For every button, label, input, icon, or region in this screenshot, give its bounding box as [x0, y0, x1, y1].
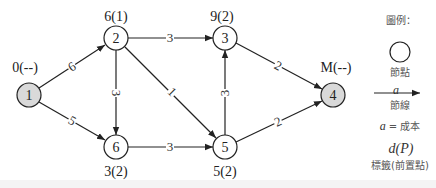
node-5-label: 5(2) — [213, 164, 237, 180]
legend-cost: a = 成本 — [380, 119, 421, 133]
node-4-label: M(--) — [320, 60, 351, 76]
legend: 圖例： 節點 a 節線 a = 成本 d(P) 標籤(前置點) — [371, 14, 429, 171]
node-6-id: 6 — [113, 140, 120, 155]
node-2-id: 2 — [113, 31, 120, 46]
node-6-label: 3(2) — [104, 164, 128, 180]
edge-cost-5-3: 3 — [217, 90, 232, 97]
node-4: 4 M(--) — [320, 60, 351, 107]
edge-cost-2-6: 3 — [109, 90, 124, 97]
edge-cost-2-3: 3 — [167, 30, 174, 45]
edge-cost-6-5: 3 — [167, 139, 174, 154]
edges — [39, 38, 322, 147]
node-5-id: 5 — [222, 140, 229, 155]
legend-label-caption: 標籤(前置點) — [371, 159, 429, 171]
legend-arc-symbol: a — [393, 83, 399, 97]
node-3-label: 9(2) — [210, 9, 234, 25]
legend-node-circle-icon — [390, 42, 410, 62]
node-2-label: 6(1) — [104, 9, 128, 25]
node-3: 3 9(2) — [210, 9, 237, 50]
node-6: 6 3(2) — [104, 135, 128, 180]
nodes: 1 0(--) 2 6(1) 3 9(2) 4 M(--) 5 5(2) 6 3… — [12, 9, 352, 180]
legend-label-symbol: d(P) — [389, 141, 414, 157]
legend-node-caption: 節點 — [390, 66, 410, 78]
legend-title: 圖例： — [386, 14, 416, 26]
node-1-id: 1 — [26, 88, 33, 103]
cropped-caption-band — [0, 180, 436, 188]
node-2: 2 6(1) — [104, 9, 128, 50]
legend-cost-eq: = 成本 — [386, 120, 421, 132]
node-1-label: 0(--) — [12, 60, 38, 76]
legend-arc-caption: 節線 — [390, 99, 410, 111]
node-3-id: 3 — [222, 31, 229, 46]
node-5: 5 5(2) — [213, 135, 237, 180]
node-4-id: 4 — [330, 88, 337, 103]
node-1: 1 0(--) — [12, 60, 41, 107]
network-diagram: 6 5 3 3 1 3 3 2 — [0, 0, 436, 188]
